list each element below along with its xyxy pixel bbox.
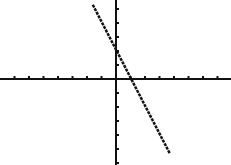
plot-area [0,0,231,165]
graph-screen [0,0,231,165]
